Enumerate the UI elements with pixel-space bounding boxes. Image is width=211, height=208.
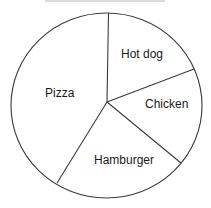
slice-label-chicken: Chicken — [145, 97, 188, 111]
pie-chart: Hot dog Chicken Hamburger Pizza — [0, 0, 211, 208]
slice-label-pizza: Pizza — [45, 86, 75, 100]
title-remnant — [45, 0, 165, 2]
slice-label-hot-dog: Hot dog — [121, 47, 163, 61]
slice-label-hamburger: Hamburger — [94, 153, 154, 167]
